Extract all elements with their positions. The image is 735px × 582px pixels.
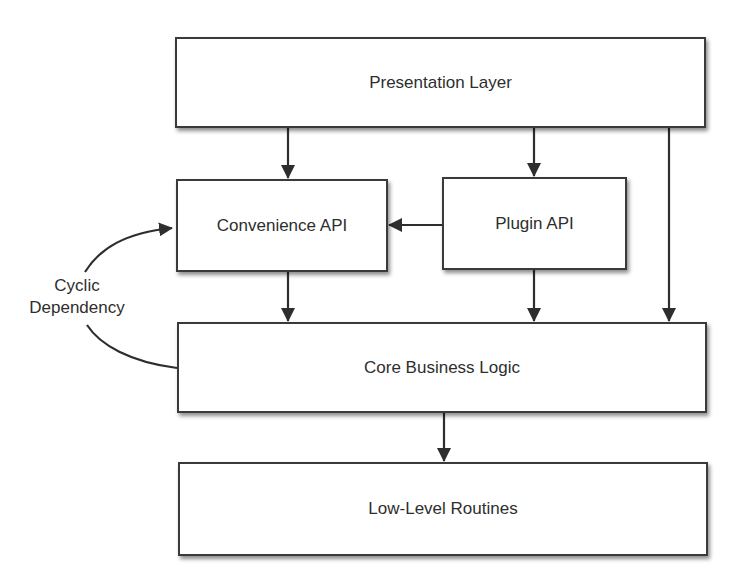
cyclic-dependency-line2: Dependency xyxy=(22,297,132,319)
cyclic-dependency-annotation: Cyclic Dependency xyxy=(22,275,132,319)
layered-architecture-diagram: Presentation Layer Convenience API Plugi… xyxy=(0,0,735,582)
low-level-routines-box: Low-Level Routines xyxy=(178,462,708,556)
core-business-logic-label: Core Business Logic xyxy=(364,358,520,378)
presentation-layer-label: Presentation Layer xyxy=(369,73,512,93)
plugin-api-label: Plugin API xyxy=(495,214,573,234)
core-business-logic-box: Core Business Logic xyxy=(177,322,707,413)
arrow-cyclic-dependency-lower xyxy=(87,325,177,368)
low-level-routines-label: Low-Level Routines xyxy=(368,499,517,519)
convenience-api-label: Convenience API xyxy=(217,216,347,236)
arrow-cyclic-dependency-upper xyxy=(85,228,172,272)
plugin-api-box: Plugin API xyxy=(442,177,627,270)
cyclic-dependency-line1: Cyclic xyxy=(22,275,132,297)
presentation-layer-box: Presentation Layer xyxy=(175,37,706,128)
convenience-api-box: Convenience API xyxy=(176,179,388,272)
